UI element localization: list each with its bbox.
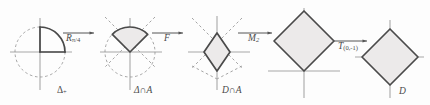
arrow-3-label-sub: 2: [256, 36, 259, 43]
panel-1-base-label: Δ+: [57, 86, 67, 96]
panel-3-dashed-lower-left: [192, 66, 217, 79]
panel-3-graphic: [188, 16, 250, 90]
panel-5-graphic: [355, 20, 424, 98]
panel-4-graphic: [268, 8, 340, 98]
arrow-2-label-main: F: [164, 33, 170, 43]
panel-2-base-label: Δ∩A: [134, 86, 152, 96]
arrow-3-label: M2: [248, 34, 259, 44]
panel-3-dashed-lower-right: [217, 66, 242, 79]
arrow-1-label-sub: π/4: [72, 36, 80, 43]
figure-container: Rπ/4 F M2 T(0,-1) Δ+ Δ∩A D∩A D: [0, 0, 430, 105]
panel-2-graphic: [100, 17, 162, 90]
arrow-4-label-sub: (0,-1): [343, 44, 358, 51]
panel-5-diamond-fill: [362, 29, 418, 85]
arrow-4-head: [363, 39, 368, 42]
arrow-3-head: [268, 31, 273, 34]
panel-1-graphic: [10, 18, 72, 90]
panel-5-base-label: D: [399, 87, 406, 97]
panel-5-base-label-main: D: [399, 86, 406, 96]
arrow-1-head: [90, 31, 95, 34]
arrow-2-head: [179, 31, 184, 34]
arrow-4-label: T(0,-1): [338, 42, 358, 52]
panel-4-diamond-fill: [274, 11, 334, 71]
arrow-1-label: Rπ/4: [66, 34, 80, 44]
arrow-3-label-main: M: [248, 33, 256, 43]
panel-1-quarter-arc: [40, 27, 65, 52]
panel-1-base-label-sub: +: [63, 88, 67, 95]
panel-3-base-label: D∩A: [222, 86, 242, 96]
panel-2-base-label-main: Δ∩A: [134, 85, 152, 95]
panel-3-base-label-main: D∩A: [222, 85, 242, 95]
arrow-2-label: F: [164, 34, 170, 44]
panel-3-diamond-fill: [204, 33, 230, 71]
